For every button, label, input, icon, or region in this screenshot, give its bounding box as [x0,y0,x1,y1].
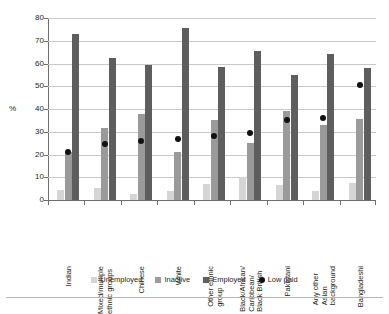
bar-inactive[interactable] [247,143,254,200]
bar-group [276,18,298,200]
y-tick-mark-60 [44,64,48,65]
bar-inactive[interactable] [283,111,290,200]
legend-item-employed[interactable]: Employed [203,275,245,284]
bar-unemployed[interactable] [94,188,101,201]
bar-employed[interactable] [218,67,225,200]
bar-employed[interactable] [254,51,261,200]
low-paid-marker[interactable] [102,141,108,147]
bar-employed[interactable] [364,68,371,200]
bar-group [94,18,116,200]
x-tick-mark [303,200,304,205]
y-tick-label-60: 60 [24,60,44,68]
legend-item-inactive[interactable]: Inactive [155,275,190,284]
bar-unemployed[interactable] [167,191,174,200]
x-tick-mark [230,200,231,205]
bar-unemployed[interactable] [312,191,319,200]
bar-unemployed[interactable] [239,177,246,200]
bar-unemployed[interactable] [276,185,283,200]
y-tick-mark-10 [44,177,48,178]
y-tick-mark-30 [44,132,48,133]
x-tick-label: Bangladeshi [357,266,366,307]
legend-square-icon [203,277,209,283]
bar-group [239,18,261,200]
y-tick-mark-20 [44,155,48,156]
bar-group [349,18,371,200]
bar-unemployed[interactable] [57,190,64,200]
low-paid-marker[interactable] [138,138,144,144]
low-paid-marker[interactable] [357,82,363,88]
y-tick-label-20: 20 [24,151,44,159]
bar-inactive[interactable] [174,152,181,200]
y-axis-tick-labels: 01020304050607080 [22,18,44,200]
plot-area [48,18,376,200]
bar-employed[interactable] [182,28,189,200]
y-tick-label-70: 70 [24,37,44,45]
x-tick-mark [157,200,158,205]
legend-square-icon [91,277,97,283]
bar-group [312,18,334,200]
y-tick-mark-50 [44,86,48,87]
y-axis-title: % [9,104,16,113]
legend-label: Unemployed [100,275,142,284]
bar-employed[interactable] [291,75,298,200]
bar-group [167,18,189,200]
bar-inactive[interactable] [138,114,145,200]
bar-inactive[interactable] [320,125,327,200]
y-tick-label-40: 40 [24,105,44,113]
y-tick-mark-70 [44,41,48,42]
x-tick-mark [84,200,85,205]
bar-inactive[interactable] [101,128,108,200]
y-tick-label-0: 0 [24,196,44,204]
y-tick-label-10: 10 [24,173,44,181]
y-tick-mark-80 [44,18,48,19]
x-tick-label: Any other Asian background [312,266,338,305]
y-tick-mark-40 [44,109,48,110]
y-tick-label-80: 80 [24,14,44,22]
low-paid-marker[interactable] [175,136,181,142]
legend-label: Inactive [164,275,190,284]
bar-group [203,18,225,200]
bar-group [57,18,79,200]
bar-unemployed[interactable] [203,184,210,200]
legend-dot-icon [259,277,265,283]
legend-label: Employed [212,275,245,284]
bar-employed[interactable] [109,58,116,200]
y-tick-label-30: 30 [24,128,44,136]
legend-item-low-paid[interactable]: Low paid [259,275,298,284]
x-tick-label: Mixed/multiple ethnic groups [97,266,114,314]
bar-unemployed[interactable] [349,183,356,200]
x-tick-label: Other ethnic group [207,266,224,307]
bar-employed[interactable] [72,34,79,200]
y-tick-mark-0 [44,200,48,201]
legend-square-icon [155,277,161,283]
bar-inactive[interactable] [65,152,72,200]
y-tick-label-50: 50 [24,82,44,90]
footer-divider [6,297,383,298]
x-tick-mark [375,200,376,205]
x-tick-mark [340,200,341,205]
x-tick-label: Black/African/ Caribbean/ Black British [239,266,265,312]
x-tick-mark [48,200,49,205]
x-tick-mark [267,200,268,205]
x-tick-mark [194,200,195,205]
bar-group [130,18,152,200]
bar-inactive[interactable] [356,119,363,200]
x-tick-mark [121,200,122,205]
x-axis-tick-labels: IndianMixed/multiple ethnic groupsChines… [48,206,376,268]
legend-item-unemployed[interactable]: Unemployed [91,275,142,284]
chart-legend: UnemployedInactiveEmployedLow paid [0,275,389,284]
legend-label: Low paid [268,275,298,284]
bar-employed[interactable] [327,54,334,200]
bar-employed[interactable] [145,65,152,200]
